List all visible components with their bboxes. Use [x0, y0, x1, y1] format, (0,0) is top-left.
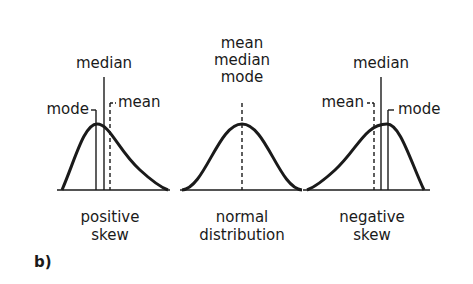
positive-mode-label: mode [33, 101, 89, 118]
negative-skew-curve [307, 124, 424, 190]
positive-mean-label: mean [118, 94, 168, 111]
normal-caption-line1: normal [192, 208, 292, 226]
normal-caption-line2: distribution [192, 226, 292, 244]
positive-caption-line2: skew [70, 226, 150, 244]
negative-median-label: median [347, 55, 415, 72]
positive-skew-curve [62, 124, 168, 190]
negative-mode-label: mode [398, 101, 454, 118]
normal-mode-label: mode [202, 69, 282, 86]
panel-label: b) [34, 253, 52, 271]
positive-median-label: median [70, 55, 138, 72]
negative-caption-line2: skew [327, 226, 417, 244]
negative-mean-label: mean [312, 94, 364, 111]
normal-curve-group [180, 103, 302, 190]
normal-median-label: median [202, 52, 282, 69]
normal-mean-label: mean [202, 35, 282, 52]
positive-caption-line1: positive [70, 208, 150, 226]
negative-caption-line1: negative [327, 208, 417, 226]
